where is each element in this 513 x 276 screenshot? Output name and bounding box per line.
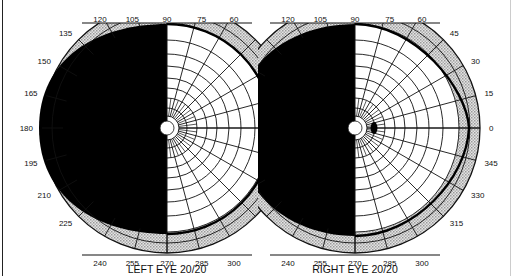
angle-label: 300	[227, 259, 241, 268]
angle-label: 90	[351, 15, 360, 24]
angle-label: 345	[484, 159, 498, 168]
angle-label: 210	[38, 191, 52, 200]
angle-label: 330	[471, 191, 485, 200]
angle-label: 120	[281, 15, 295, 24]
angle-label: 225	[59, 219, 73, 228]
angle-label: 315	[450, 219, 464, 228]
angle-label: 300	[415, 259, 429, 268]
angle-label: 30	[471, 57, 480, 66]
left-eye-field: 1201059075601351501651801952102252402552…	[20, 3, 292, 268]
angle-label: 60	[418, 15, 427, 24]
angle-label: 90	[163, 15, 172, 24]
right-eye-field: 1201059075604530150345330315240255270285…	[230, 3, 498, 268]
angle-label: 150	[38, 57, 52, 66]
angle-label: 105	[314, 15, 328, 24]
angle-label: 195	[24, 159, 38, 168]
left-eye-caption: LEFT EYE 20/20	[128, 263, 207, 275]
angle-label: 105	[126, 15, 140, 24]
angle-label: 180	[20, 124, 34, 133]
angle-label: 240	[93, 259, 107, 268]
angle-label: 120	[93, 15, 107, 24]
angle-label: 75	[385, 15, 394, 24]
angle-label: 0	[489, 124, 494, 133]
visual-field-chart: 1201059075601351501651801952102252402552…	[0, 0, 513, 276]
angle-label: 15	[484, 89, 493, 98]
angle-label: 60	[230, 15, 239, 24]
angle-label: 75	[197, 15, 206, 24]
right-eye-caption: RIGHT EYE 20/20	[312, 263, 398, 275]
angle-label: 165	[24, 89, 38, 98]
angle-label: 240	[281, 259, 295, 268]
angle-label: 45	[450, 29, 459, 38]
angle-label: 135	[59, 29, 73, 38]
